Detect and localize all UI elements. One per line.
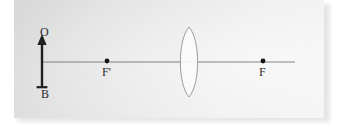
object-bottom-label: B: [41, 88, 49, 100]
focal-point-right-dot: [261, 59, 266, 64]
optics-diagram-screenshot: O B F' F: [0, 0, 338, 129]
focal-point-left-label: F': [102, 66, 111, 78]
diagram-figure: O B F' F: [14, 0, 324, 118]
focal-point-right-label: F: [259, 66, 266, 78]
lens-outline: [180, 27, 197, 97]
diagram-svg: [14, 0, 324, 118]
focal-point-left-dot: [105, 59, 110, 64]
object-top-label: O: [40, 26, 49, 38]
